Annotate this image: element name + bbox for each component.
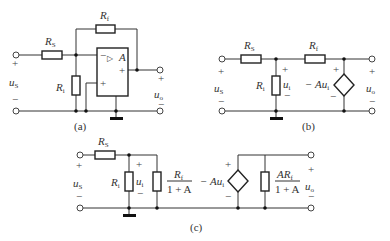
terminal (77, 152, 83, 158)
svg-text:−: − (12, 93, 18, 105)
resistor-arf-over-1-plus-a (261, 172, 269, 191)
svg-text:−: − (137, 187, 143, 199)
terminal (369, 56, 375, 62)
svg-text:−: − (330, 90, 336, 102)
resistor-rs (241, 55, 261, 63)
svg-text:Ri: Ri (255, 79, 265, 93)
circuit-diagram: − ▷ A + + RS Rf Ri + uS − + uo − (a) (0, 0, 390, 241)
svg-text:+: + (282, 63, 288, 75)
svg-text:− Aui: − Aui (305, 78, 329, 92)
ground-icon (110, 117, 123, 120)
svg-text:uS: uS (73, 177, 83, 191)
terminal (77, 205, 83, 211)
circuit-b: RS Rf Ri + ui − + − Aui − + uS − + uo − … (214, 39, 376, 133)
caption-a: (a) (74, 120, 87, 133)
dependent-source-icon (334, 74, 354, 96)
caption-c: (c) (190, 221, 203, 234)
svg-text:Rf: Rf (173, 168, 184, 182)
svg-text:1 + A: 1 + A (167, 183, 192, 195)
dependent-source-icon (228, 170, 248, 192)
svg-text:uo: uo (366, 82, 376, 96)
resistor-rs (42, 51, 62, 59)
svg-text:+: + (308, 163, 314, 175)
svg-text:+: + (333, 63, 339, 75)
svg-text:−: − (158, 98, 164, 110)
svg-text:−: − (308, 190, 314, 202)
resistor-ri (125, 172, 133, 191)
svg-text:RS: RS (44, 35, 56, 49)
resistor-rf (305, 55, 325, 63)
resistor-ri (72, 76, 80, 95)
terminal (308, 205, 314, 211)
svg-text:− Aui: − Aui (200, 175, 224, 189)
circuit-c: RS Ri + ui − Rf 1 + A + − Aui − ARf 1 + … (73, 135, 315, 234)
terminal (369, 108, 375, 114)
svg-text:+: + (100, 77, 106, 89)
svg-text:−: − (76, 190, 82, 202)
svg-text:+: + (158, 72, 164, 84)
svg-text:+: + (369, 65, 375, 77)
svg-text:−: − (369, 95, 375, 107)
svg-text:Rf: Rf (308, 39, 319, 53)
svg-text:−: − (284, 89, 290, 101)
terminal (13, 108, 19, 114)
svg-text:uS: uS (9, 76, 19, 90)
terminal (308, 152, 314, 158)
svg-text:1 + A: 1 + A (275, 183, 300, 195)
opamp-triangle-icon: ▷ (107, 54, 114, 63)
svg-text:−: − (218, 95, 224, 107)
terminal (219, 108, 225, 114)
svg-text:RS: RS (97, 135, 109, 149)
ground-icon (123, 214, 136, 217)
svg-text:+: + (119, 64, 125, 76)
svg-text:+: + (12, 57, 18, 69)
svg-text:Rf: Rf (99, 9, 110, 23)
ground-icon (270, 117, 283, 120)
svg-text:+: + (76, 159, 82, 171)
terminal (219, 56, 225, 62)
svg-text:Ri: Ri (55, 81, 65, 95)
caption-b: (b) (302, 120, 315, 133)
svg-text:+: + (225, 158, 231, 170)
resistor-rs (95, 151, 115, 159)
svg-text:uS: uS (214, 82, 224, 96)
svg-text:−: − (100, 49, 106, 61)
svg-text:+: + (218, 65, 224, 77)
svg-text:−: − (225, 190, 231, 202)
resistor-rf (96, 25, 115, 33)
circuit-a: − ▷ A + + RS Rf Ri + uS − + uo − (a) (9, 9, 164, 133)
svg-text:ARf: ARf (276, 168, 293, 182)
svg-text:A: A (118, 51, 126, 63)
svg-text:Ri: Ri (110, 176, 120, 190)
resistor-ri (272, 76, 280, 95)
svg-text:+: + (136, 158, 142, 170)
resistor-rf-over-1-plus-a (153, 172, 161, 191)
svg-text:RS: RS (243, 39, 255, 53)
